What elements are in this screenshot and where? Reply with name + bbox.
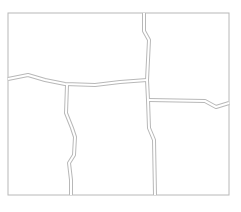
parcel-map: [0, 0, 241, 212]
map-boundary: [8, 13, 229, 195]
